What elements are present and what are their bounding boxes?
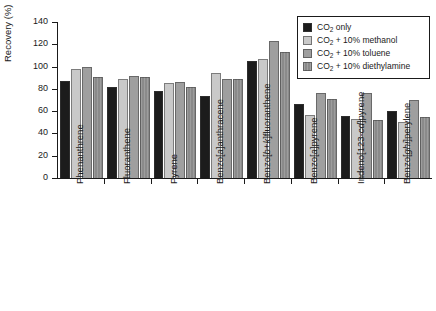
- legend-label: CO2 only: [317, 22, 351, 33]
- legend-item: CO2 + 10% diethylamine: [303, 60, 424, 73]
- bar: [200, 96, 210, 178]
- x-axis-category-label: Indeno[123-cd]pyrene: [356, 92, 366, 184]
- bar: [233, 79, 243, 178]
- legend-label: CO2 + 10% toluene: [317, 48, 390, 59]
- x-axis-category-label: Benzo[ghi]perylene: [402, 103, 412, 184]
- legend-swatch: [303, 36, 312, 45]
- bar: [107, 87, 117, 178]
- bar: [420, 117, 430, 178]
- bar: [373, 120, 383, 178]
- bar: [327, 99, 337, 178]
- legend-swatch: [303, 23, 312, 32]
- x-axis-category-label: Phenanthrene: [75, 124, 85, 184]
- legend-item: CO2 only: [303, 21, 424, 34]
- y-axis-tick-label: 60: [38, 105, 48, 116]
- legend-label: CO2 + 10% methanol: [317, 35, 397, 46]
- bar: [280, 52, 290, 178]
- legend-item: CO2 + 10% toluene: [303, 47, 424, 60]
- x-axis-category-label: Benzo[a]pyrene: [309, 117, 319, 184]
- y-axis-tick-label: 0: [43, 172, 48, 183]
- x-axis-category-labels: PhenanthreneFluoranthenePyreneBenzo[a]an…: [57, 180, 431, 308]
- y-axis-tick-label: 140: [33, 16, 48, 27]
- bar: [93, 77, 103, 178]
- bar: [387, 111, 397, 178]
- y-axis-tick-label: 80: [38, 83, 48, 94]
- bar: [60, 81, 70, 178]
- x-axis-category-label: Pyrene: [169, 154, 179, 184]
- legend-item: CO2 + 10% methanol: [303, 34, 424, 47]
- x-axis-category-label: Benzo[b+k]fluoranthene: [262, 83, 272, 184]
- y-axis-tick-label: 100: [33, 61, 48, 72]
- y-axis-tick-label: 40: [38, 127, 48, 138]
- y-axis-title: Recovery (%): [2, 4, 13, 62]
- legend-swatch: [303, 49, 312, 58]
- bar: [186, 87, 196, 178]
- bar: [247, 61, 257, 178]
- y-axis-tick: 0: [52, 178, 57, 179]
- legend-label: CO2 + 10% diethylamine: [317, 61, 410, 72]
- recovery-bar-chart-figure: Recovery (%) 020406080100120140 Phenanth…: [0, 0, 436, 311]
- x-axis-category-label: Fluoranthene: [122, 128, 132, 184]
- x-axis-category-label: Benzo[a]anthracene: [215, 99, 225, 184]
- legend-swatch: [303, 62, 312, 71]
- y-axis-tick-label: 120: [33, 38, 48, 49]
- y-axis-tick-label: 20: [38, 150, 48, 161]
- bar: [341, 116, 351, 178]
- chart-legend: CO2 onlyCO2 + 10% methanolCO2 + 10% tolu…: [297, 16, 430, 79]
- bar: [294, 104, 304, 178]
- bar: [140, 77, 150, 178]
- bar: [154, 91, 164, 178]
